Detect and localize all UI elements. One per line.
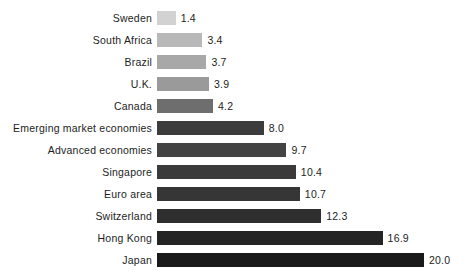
- value-label: 3.7: [211, 55, 226, 69]
- bar-track: 3.4: [157, 33, 223, 47]
- bar-rect: [157, 231, 383, 245]
- bar-rect: [157, 143, 286, 157]
- bar-row: Hong Kong16.9: [0, 231, 466, 245]
- category-label: Hong Kong: [0, 231, 152, 245]
- value-label: 10.7: [305, 187, 326, 201]
- bar-row: Advanced economies9.7: [0, 143, 466, 157]
- value-label: 9.7: [291, 143, 306, 157]
- bar-row: Canada4.2: [0, 99, 466, 113]
- bar-rect: [157, 33, 202, 47]
- bar-track: 8.0: [157, 121, 284, 135]
- category-label: Singapore: [0, 165, 152, 179]
- bar-rect: [157, 11, 176, 25]
- bar-row: Brazil3.7: [0, 55, 466, 69]
- bar-chart: Sweden1.4South Africa3.4Brazil3.7U.K.3.9…: [0, 0, 466, 275]
- bar-rect: [157, 253, 424, 267]
- category-label: Euro area: [0, 187, 152, 201]
- category-label: Brazil: [0, 55, 152, 69]
- bar-track: 20.0: [157, 253, 450, 267]
- bar-track: 4.2: [157, 99, 233, 113]
- value-label: 3.4: [207, 33, 222, 47]
- category-label: Japan: [0, 253, 152, 267]
- value-label: 20.0: [429, 253, 450, 267]
- bar-track: 10.7: [157, 187, 326, 201]
- bar-rect: [157, 209, 321, 223]
- bar-track: 16.9: [157, 231, 409, 245]
- bar-row: Emerging market economies8.0: [0, 121, 466, 135]
- bar-row: U.K.3.9: [0, 77, 466, 91]
- bar-track: 3.7: [157, 55, 227, 69]
- bar-rect: [157, 99, 213, 113]
- value-label: 10.4: [301, 165, 322, 179]
- bar-track: 3.9: [157, 77, 229, 91]
- bar-track: 12.3: [157, 209, 347, 223]
- value-label: 16.9: [388, 231, 409, 245]
- value-label: 4.2: [218, 99, 233, 113]
- bar-row: Singapore10.4: [0, 165, 466, 179]
- value-label: 1.4: [181, 11, 196, 25]
- bar-row: Switzerland12.3: [0, 209, 466, 223]
- bar-row: Euro area10.7: [0, 187, 466, 201]
- category-label: Emerging market economies: [0, 121, 152, 135]
- bar-row: Japan20.0: [0, 253, 466, 267]
- value-label: 12.3: [326, 209, 347, 223]
- category-label: U.K.: [0, 77, 152, 91]
- bar-rect: [157, 55, 206, 69]
- bar-row: Sweden1.4: [0, 11, 466, 25]
- value-label: 3.9: [214, 77, 229, 91]
- bar-track: 9.7: [157, 143, 307, 157]
- bar-track: 1.4: [157, 11, 196, 25]
- bar-track: 10.4: [157, 165, 322, 179]
- category-label: Advanced economies: [0, 143, 152, 157]
- bar-rect: [157, 77, 209, 91]
- bar-rect: [157, 121, 264, 135]
- bar-row: South Africa3.4: [0, 33, 466, 47]
- value-label: 8.0: [269, 121, 284, 135]
- bar-rect: [157, 165, 296, 179]
- category-label: Canada: [0, 99, 152, 113]
- category-label: Switzerland: [0, 209, 152, 223]
- bar-rect: [157, 187, 300, 201]
- category-label: South Africa: [0, 33, 152, 47]
- category-label: Sweden: [0, 11, 152, 25]
